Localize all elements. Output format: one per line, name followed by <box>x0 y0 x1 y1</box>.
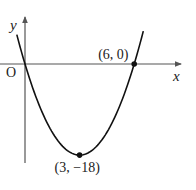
point-label: (6, 0) <box>98 47 129 63</box>
annotations: (6, 0)(3, −18) <box>55 47 137 176</box>
y-axis-label: y <box>8 17 17 33</box>
parabola-chart: x y O (6, 0)(3, −18) <box>0 0 196 190</box>
point-marker <box>77 152 83 158</box>
point-label: (3, −18) <box>55 160 101 176</box>
origin-label: O <box>6 65 16 80</box>
point-marker <box>131 61 137 67</box>
x-axis-label: x <box>172 68 180 84</box>
